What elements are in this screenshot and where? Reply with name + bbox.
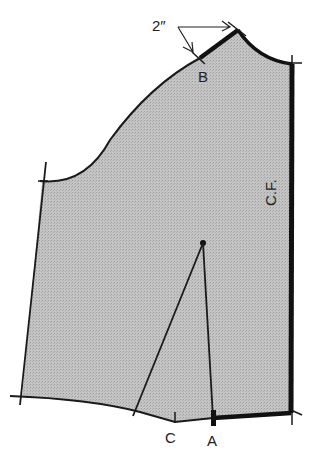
measurement-label: 2″ [152, 17, 166, 34]
measure-arrow-upper [178, 21, 230, 31]
point-c-label: C [165, 429, 176, 446]
point-a-label: A [207, 432, 217, 449]
point-b-label: B [198, 68, 208, 85]
pattern-diagram: 2″ B C A C.F. [0, 0, 312, 468]
center-front-line [291, 64, 292, 413]
point-a-marker [211, 410, 216, 426]
center-front-label: C.F. [262, 179, 279, 206]
measure-arrow-lower [178, 27, 193, 52]
